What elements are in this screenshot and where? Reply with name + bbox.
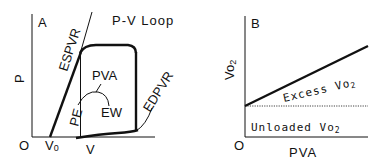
espvr-label: ESPVR [56, 26, 84, 73]
panel-b: B Vo2 O PVA Excess Vo2 Unloaded Vo2 [222, 16, 368, 160]
pva-axis-label: PVA [289, 145, 317, 160]
pva-bracket-arc [78, 92, 109, 106]
origin-label: O [19, 138, 29, 153]
v0-label: V0 [45, 138, 59, 153]
pva-pointer [96, 84, 101, 92]
pv-loop-top [80, 45, 136, 53]
pressure-axis-label: P [12, 74, 27, 83]
diagram-canvas: A P O V0 V ESPVR P-V Loop PVA PE EW EDPV… [0, 0, 384, 167]
pva-label: PVA [92, 68, 117, 83]
volume-axis-label: V [86, 142, 95, 157]
ew-label: EW [101, 105, 123, 120]
origin-label-b: O [234, 138, 244, 153]
edpvr-label: EDPVR [140, 69, 176, 115]
panel-a-label: A [38, 15, 47, 30]
panel-a: A P O V0 V ESPVR P-V Loop PVA PE EW EDPV… [12, 12, 176, 157]
unloaded-vo2-label: Unloaded Vo2 [251, 121, 341, 135]
excess-vo2-label: Excess Vo2 [282, 76, 358, 106]
pe-label: PE [66, 107, 85, 128]
pv-loop-label: P-V Loop [112, 13, 174, 28]
panel-b-label: B [251, 16, 260, 31]
vo2-axis-label: Vo2 [222, 60, 238, 80]
